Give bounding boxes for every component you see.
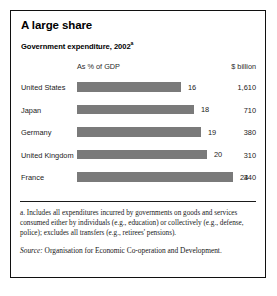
row-label-united-states: United States — [21, 83, 65, 92]
bar-track-united-kingdom: 20 — [77, 150, 256, 162]
bar-france — [77, 172, 233, 182]
table-row: Germany 19 380 — [11, 125, 265, 148]
bar-united-states — [77, 82, 181, 92]
chart-subtitle-text: Government expenditure, 2002 — [21, 42, 131, 51]
footnote-divider — [20, 201, 256, 202]
bar-value-united-kingdom: 20 — [214, 150, 222, 159]
table-row: Japan 18 710 — [11, 103, 265, 126]
column-header-percent-gdp: As % of GDP — [77, 62, 120, 71]
bar-track-france: 24 — [77, 172, 256, 184]
row-dollar-japan: 710 — [244, 106, 256, 115]
footnote-marker: a — [131, 40, 134, 46]
row-label-france: France — [21, 173, 44, 182]
source-line: Source: Organisation for Economic Co-ope… — [20, 246, 256, 255]
bar-track-united-states: 16 — [77, 82, 256, 94]
chart-rows: United States 16 1,610 Japan 18 710 Germ… — [11, 80, 265, 193]
bar-value-germany: 19 — [208, 128, 216, 137]
bar-value-united-states: 16 — [188, 83, 196, 92]
bar-track-japan: 18 — [77, 105, 256, 117]
source-label: Source: — [20, 246, 43, 255]
row-dollar-germany: 380 — [244, 128, 256, 137]
row-dollar-united-states: 1,610 — [238, 83, 257, 92]
page-title: A large share — [21, 19, 92, 31]
bar-value-japan: 18 — [201, 105, 209, 114]
row-label-japan: Japan — [21, 106, 41, 115]
bar-germany — [77, 127, 201, 137]
bar-japan — [77, 105, 194, 115]
source-text: Organisation for Economic Co-operation a… — [45, 246, 222, 255]
bar-track-germany: 19 — [77, 127, 256, 139]
chart-subtitle: Government expenditure, 2002a — [21, 42, 133, 51]
table-row: United Kingdom 20 310 — [11, 148, 265, 171]
bar-united-kingdom — [77, 150, 207, 160]
row-dollar-france: 340 — [244, 173, 256, 182]
row-label-united-kingdom: United Kingdom — [21, 151, 74, 160]
column-header-dollar-billion: $ billion — [231, 62, 256, 71]
chart-card: A large share Government expenditure, 20… — [10, 10, 266, 278]
table-row: France 24 340 — [11, 170, 265, 193]
row-dollar-united-kingdom: 310 — [244, 151, 256, 160]
footnote-text: a. Includes all expenditures incurred by… — [20, 208, 256, 239]
table-row: United States 16 1,610 — [11, 80, 265, 103]
row-label-germany: Germany — [21, 128, 51, 137]
chart-card-inner: A large share Government expenditure, 20… — [11, 11, 265, 277]
